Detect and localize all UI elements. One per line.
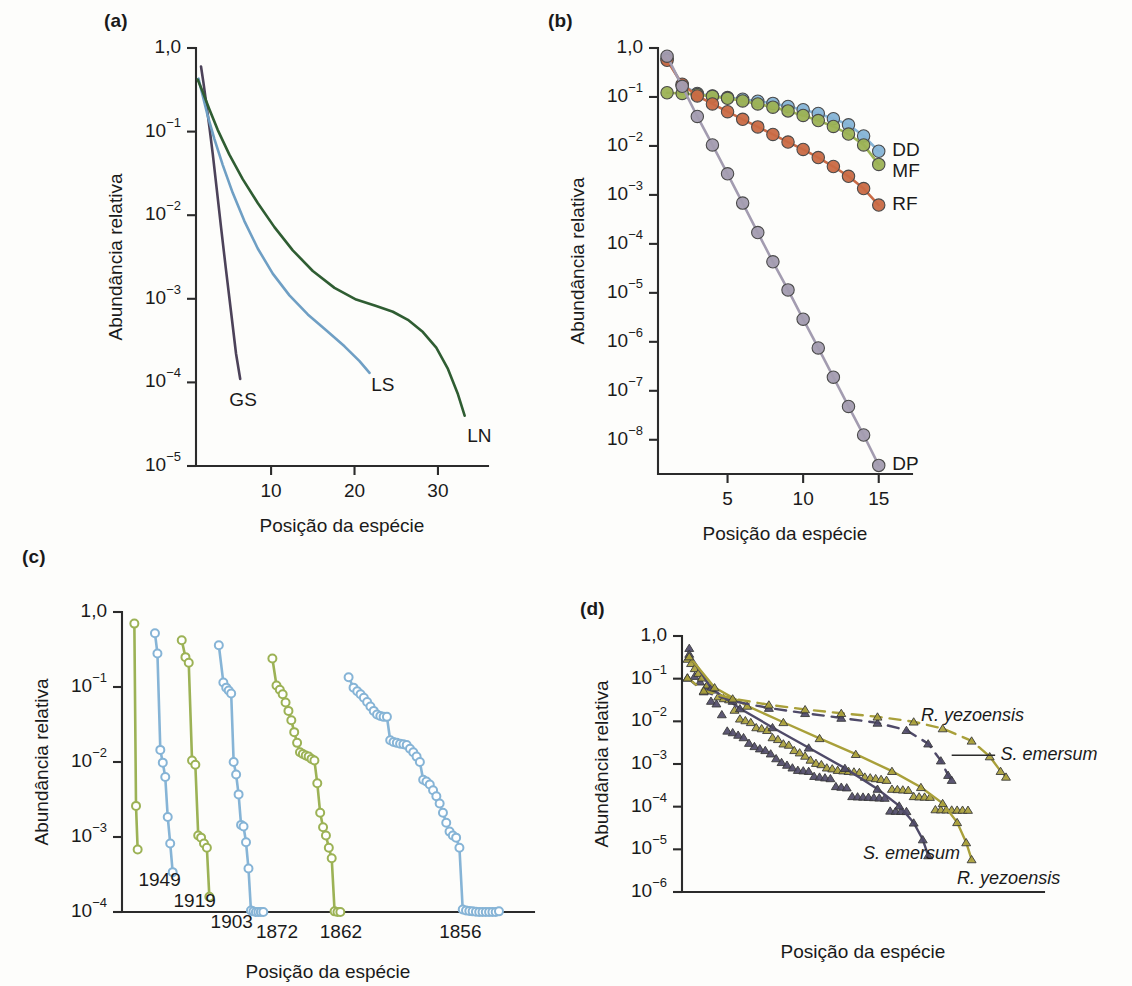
y-tick-label: 10−5	[607, 276, 643, 302]
data-point-circle	[827, 120, 839, 132]
data-point-circle	[227, 689, 235, 697]
y-tick-label: 10−1	[145, 115, 181, 141]
data-point-circle	[134, 846, 142, 854]
data-point-circle	[782, 105, 794, 117]
annotation-label: R. yezoensis	[957, 868, 1060, 888]
series-r-yezoensis-fit	[689, 657, 971, 860]
y-tick-label: 10−3	[71, 820, 107, 846]
data-point-circle	[812, 151, 824, 163]
y-tick-label: 10−3	[145, 282, 181, 308]
annotation-label: LS	[371, 374, 394, 395]
y-axis-title: Abundância relativa	[105, 173, 126, 340]
data-point-circle	[721, 168, 733, 180]
data-point-circle	[812, 342, 824, 354]
data-point-circle	[721, 106, 733, 118]
series-r-yezoensis-model	[687, 678, 1006, 777]
data-point-circle	[782, 284, 794, 296]
series-1949	[134, 624, 137, 850]
plot-area: 1,010−110−210−310−410−510−6Posição da es…	[591, 624, 1098, 962]
y-tick-label: 10−3	[631, 747, 667, 773]
data-point-circle	[164, 813, 172, 821]
data-point-circle	[752, 121, 764, 133]
x-axis-title: Posição da espécie	[246, 961, 411, 982]
data-point-circle	[767, 101, 779, 113]
figure-root: (a) 1,010−110−210−310−410−5102030Posição…	[0, 0, 1132, 986]
data-point-circle	[842, 170, 854, 182]
plot-area: 1,010−110−210−310−410−510−610−710−851015…	[567, 36, 920, 544]
annotation-label: RF	[892, 193, 917, 214]
annotation-label: S. emersum	[863, 843, 960, 863]
data-point-circle	[721, 92, 733, 104]
y-axis-title: Abundância relativa	[591, 680, 612, 847]
data-point-circle	[827, 371, 839, 383]
data-point-circle	[706, 139, 718, 151]
data-point-circle	[313, 779, 321, 787]
annotation-label: DP	[892, 453, 918, 474]
data-point-circle	[215, 641, 223, 649]
data-point-circle	[442, 819, 450, 827]
data-point-circle	[328, 854, 336, 862]
y-tick-label: 10−2	[607, 129, 643, 155]
data-point-circle	[436, 799, 444, 807]
data-point-circle	[178, 636, 186, 644]
data-point-circle	[319, 823, 327, 831]
data-point-circle	[235, 790, 243, 798]
data-point-circle	[797, 109, 809, 121]
y-tick-label: 10−2	[631, 705, 667, 731]
data-point-circle	[452, 834, 460, 842]
data-point-circle	[284, 707, 292, 715]
plot-area: 1,010−110−210−310−4Posição da espécieAbu…	[31, 600, 534, 982]
data-point-circle	[130, 620, 138, 628]
data-point-circle	[812, 114, 824, 126]
annotation-label: 1862	[320, 921, 362, 942]
data-point-circle	[873, 145, 885, 157]
y-tick-label: 1,0	[617, 36, 643, 57]
data-point-circle	[827, 160, 839, 172]
annotation-label: DD	[892, 139, 919, 160]
annotation-label: R. yezoensis	[921, 705, 1024, 725]
y-tick-label: 10−2	[71, 745, 107, 771]
data-point-circle	[706, 98, 718, 110]
data-point-circle	[736, 197, 748, 209]
annotation-label: MF	[892, 160, 919, 181]
x-tick-label: 15	[868, 488, 889, 509]
x-tick-label: 5	[722, 488, 733, 509]
data-point-circle	[797, 313, 809, 325]
data-point-circle	[336, 908, 344, 916]
data-point-circle	[416, 758, 424, 766]
panel-d-tag: (d)	[580, 598, 605, 620]
data-point-circle	[290, 728, 298, 736]
series-ls	[199, 79, 370, 373]
annotation-label: 1949	[138, 869, 180, 890]
data-point-circle	[316, 809, 324, 817]
data-point-circle	[691, 90, 703, 102]
plot-area: 1,010−110−210−310−410−5102030Posição da …	[105, 36, 491, 536]
x-tick-label: 30	[427, 480, 448, 501]
annotation-label: GS	[229, 389, 256, 410]
y-axis-title: Abundância relativa	[31, 678, 52, 845]
panel-a-chart: 1,010−110−210−310−410−5102030Posição da …	[96, 4, 536, 544]
data-point-circle	[161, 773, 169, 781]
data-point-circle	[259, 908, 267, 916]
y-tick-label: 1,0	[641, 624, 667, 645]
x-tick-label: 10	[793, 488, 814, 509]
data-point-circle	[736, 113, 748, 125]
data-point-circle	[752, 98, 764, 110]
data-point-circle	[159, 759, 167, 767]
data-point-circle	[455, 844, 463, 852]
annotation-label: 1856	[439, 921, 481, 942]
panel-a-tag: (a)	[104, 10, 128, 32]
data-point-circle	[873, 199, 885, 211]
data-point-circle	[310, 756, 318, 764]
y-tick-label: 10−4	[145, 366, 181, 392]
x-tick-label: 20	[344, 480, 365, 501]
data-point-circle	[268, 654, 276, 662]
panel-c-chart: 1,010−110−210−310−4Posição da espécieAbu…	[14, 544, 574, 984]
data-point-circle	[240, 823, 248, 831]
data-point-circle	[767, 128, 779, 140]
data-point-circle	[873, 459, 885, 471]
y-tick-label: 10−5	[145, 449, 181, 475]
data-point-circle	[166, 839, 174, 847]
data-point-circle	[345, 673, 353, 681]
data-point-circle	[752, 226, 764, 238]
